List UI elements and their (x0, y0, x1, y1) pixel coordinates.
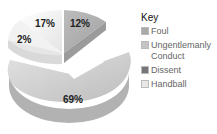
legend-label: Dissent (151, 65, 181, 76)
swatch-icon (141, 27, 149, 35)
swatch-icon (141, 80, 149, 88)
pie-chart: 17% 2% 12% 69% (0, 0, 140, 134)
label-ungentlemanly: 69% (63, 94, 83, 105)
pie-chart-svg: 17% 2% 12% 69% (0, 0, 140, 134)
legend: Key Foul Ungentlemanly Conduct Dissent H… (141, 12, 217, 93)
legend-item-dissent: Dissent (141, 65, 217, 76)
legend-item-ungentlemanly-conduct: Ungentlemanly Conduct (141, 40, 217, 62)
legend-title: Key (141, 12, 217, 23)
label-dissent: 2% (17, 34, 32, 45)
legend-label: Ungentlemanly Conduct (151, 40, 217, 62)
swatch-icon (141, 41, 149, 49)
label-foul: 12% (70, 18, 90, 29)
legend-item-foul: Foul (141, 26, 217, 37)
label-handball: 17% (35, 18, 55, 29)
legend-label: Handball (151, 79, 187, 90)
legend-item-handball: Handball (141, 79, 217, 90)
swatch-icon (141, 66, 149, 74)
legend-label: Foul (151, 26, 169, 37)
